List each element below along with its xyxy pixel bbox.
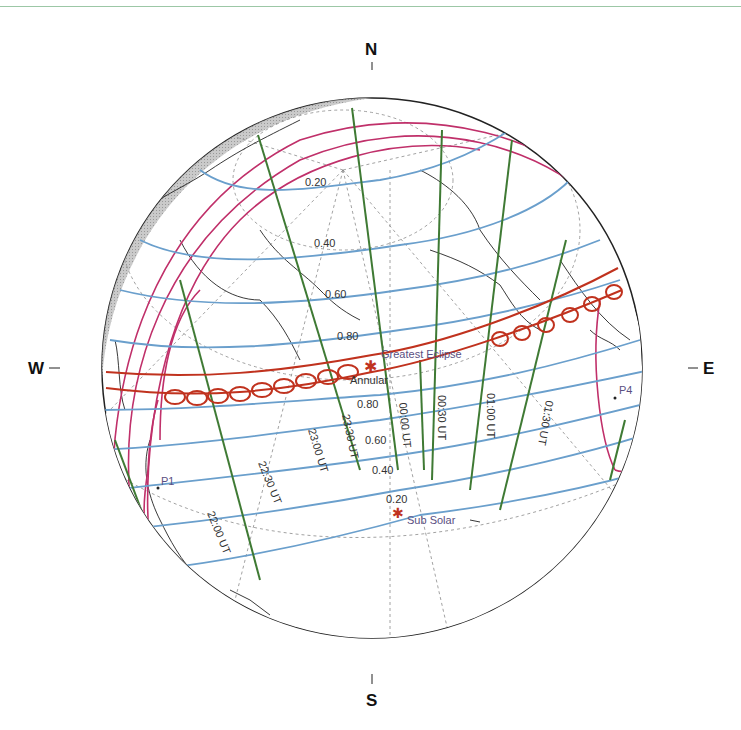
magnitude-label: 0.40 — [314, 237, 335, 249]
magnitude-label: 0.20 — [386, 493, 407, 505]
greatest-eclipse-star-icon: ✱ — [364, 358, 377, 375]
magnitude-label: 0.80 — [337, 330, 358, 342]
time-label-01-00: 01:00 UT — [485, 393, 497, 439]
magnitude-label: 0.20 — [305, 176, 326, 188]
magnitude-label: 0.60 — [365, 434, 386, 446]
compass-west: W — [28, 359, 45, 378]
p1-dot — [157, 487, 160, 490]
compass-east: E — [703, 359, 714, 378]
magnitude-label: 0.60 — [325, 288, 346, 300]
p4-label: P4 — [619, 384, 632, 396]
magnitude-label: 0.40 — [372, 464, 393, 476]
p1-label: P1 — [161, 475, 174, 487]
annular-label: Annular — [350, 374, 388, 386]
p4-dot — [614, 397, 617, 400]
time-label-00-30: 00:30 UT — [436, 395, 448, 441]
sub-solar-label: Sub Solar — [407, 514, 456, 526]
sub-solar-star-icon: ✱ — [392, 505, 404, 521]
eclipse-map: N S W E 0.20 0.40 0.60 0.80 0.80 0.60 0.… — [0, 0, 741, 730]
compass-north: N — [365, 40, 377, 59]
magnitude-label: 0.80 — [357, 398, 378, 410]
compass-south: S — [366, 691, 377, 710]
greatest-eclipse-label: Greatest Eclipse — [381, 348, 462, 360]
